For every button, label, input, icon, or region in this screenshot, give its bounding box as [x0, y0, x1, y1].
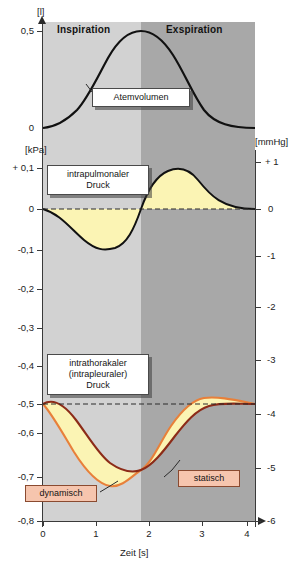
- x-axis: [42, 521, 260, 522]
- tick-vol-0-5: [37, 31, 42, 32]
- tick-mmhg-m1: [256, 256, 261, 257]
- ticklabel-mmhg-m2: -2: [267, 302, 275, 312]
- respiration-figure: [l] [kPa] [mmHg] 0,5 0 + 0,1 0 -0,1 -0,2…: [0, 0, 301, 567]
- ticklabel-x-1: 1: [86, 529, 106, 539]
- tick-mmhg-m2: [256, 307, 261, 308]
- tick-kpa-m0-3: [37, 328, 42, 329]
- ticklabel-x-0: 0: [33, 529, 53, 539]
- ticklabel-mmhg-m5: -5: [267, 463, 275, 473]
- tick-mmhg-m6: [256, 521, 261, 522]
- ticklabel-mmhg-0: 0: [268, 204, 273, 214]
- callout-intrathorakaler-line-2: (intrapleuraler): [69, 369, 128, 379]
- tag-statisch-label: statisch: [194, 473, 225, 483]
- tick-kpa-m0-6: [37, 433, 42, 434]
- tick-kpa-m0-5: [37, 404, 42, 405]
- ticklabel-vol-0-5: 0,5: [0, 26, 34, 36]
- tick-x-2: [149, 521, 150, 526]
- curve-atemvolumen: [43, 31, 255, 128]
- tick-x-3: [202, 521, 203, 526]
- ticklabel-kpa-m0-3: -0,3: [0, 323, 34, 333]
- unit-pressure-right: [mmHg]: [255, 136, 288, 147]
- callout-intrapulmonaler-druck: intrapulmonaler Druck: [47, 165, 149, 195]
- ticklabel-kpa-plus-0-1: + 0,1: [0, 163, 34, 173]
- x-axis-label: Zeit [s]: [120, 547, 149, 558]
- tag-dynamisch-label: dynamisch: [39, 488, 82, 498]
- ticklabel-kpa-m0-1: -0,1: [0, 245, 34, 255]
- tick-mmhg-0: [256, 209, 261, 210]
- ticklabel-x-4: 4: [237, 529, 257, 539]
- tick-kpa-m0-7: [37, 477, 42, 478]
- tick-x-4: [247, 521, 248, 526]
- unit-pressure-left: [kPa]: [25, 144, 47, 155]
- ticklabel-mmhg-m4: -4: [267, 409, 275, 419]
- tick-x-1: [96, 521, 97, 526]
- ticklabel-kpa-m0-7: -0,7: [0, 472, 34, 482]
- callout-intrathorakaler-druck: intrathorakaler (intrapleuraler) Druck: [47, 354, 149, 395]
- y-axis-arrow-icon: [38, 16, 46, 24]
- tick-mmhg-m3: [256, 360, 261, 361]
- callout-intrathorakaler-line-3: Druck: [86, 380, 110, 390]
- y-axis-right: [255, 150, 256, 527]
- y-axis-left: [42, 22, 43, 527]
- ticklabel-mmhg-m3: -3: [267, 355, 275, 365]
- callout-intrathorakaler-line-1: intrathorakaler: [69, 358, 127, 368]
- tick-mmhg-plus-1: [256, 162, 261, 163]
- tick-kpa-m0-4: [37, 366, 42, 367]
- phase-label-inspiration: Inspiration: [57, 24, 110, 35]
- ticklabel-mmhg-m1: -1: [267, 251, 275, 261]
- tick-kpa-0: [37, 209, 42, 210]
- tick-kpa-m0-1: [37, 250, 42, 251]
- ticklabel-mmhg-plus-1: + 1: [265, 157, 278, 167]
- callout-intrapulmonaler-line-1: intrapulmonaler: [67, 169, 129, 179]
- ticklabel-mmhg-m6: -6: [267, 516, 275, 526]
- unit-volume-left: [l]: [37, 6, 44, 17]
- tick-kpa-m0-8: [37, 521, 42, 522]
- ticklabel-kpa-m0-8: -0,8: [0, 516, 34, 526]
- ticklabel-x-2: 2: [139, 529, 159, 539]
- ticklabel-kpa-0: 0: [0, 204, 34, 214]
- tick-mmhg-m5: [256, 468, 261, 469]
- tick-kpa-m0-2: [37, 289, 42, 290]
- ticklabel-kpa-m0-6: -0,6: [0, 428, 34, 438]
- callout-atemvolumen: Atemvolumen: [92, 88, 190, 107]
- ticklabel-kpa-m0-2: -0,2: [0, 284, 34, 294]
- ticklabel-kpa-m0-4: -0,4: [0, 361, 34, 371]
- callout-atemvolumen-line-1: Atemvolumen: [113, 92, 168, 102]
- tick-kpa-plus-0-1: [37, 168, 42, 169]
- callout-intrapulmonaler-line-2: Druck: [86, 180, 110, 190]
- tag-dynamisch: dynamisch: [25, 485, 97, 502]
- tick-x-0: [43, 521, 44, 526]
- ticklabel-kpa-m0-5: -0,5: [0, 399, 34, 409]
- tag-statisch: statisch: [178, 470, 240, 487]
- ticklabel-x-3: 3: [192, 529, 212, 539]
- phase-label-expiration: Exspiration: [166, 24, 223, 35]
- ticklabel-vol-0: 0: [0, 123, 34, 133]
- tick-mmhg-m4: [256, 414, 261, 415]
